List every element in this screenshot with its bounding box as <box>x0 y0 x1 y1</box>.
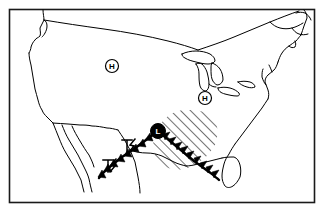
border-canada-northeast <box>198 11 299 50</box>
lake-huron <box>211 63 223 85</box>
low-pressure-label: L <box>156 127 161 136</box>
coastline-michigan-thumb <box>209 84 216 87</box>
weather-map-figure: H H L <box>0 0 324 212</box>
lake-superior <box>182 51 215 64</box>
coastline-northeast <box>278 35 301 62</box>
lake-michigan <box>196 63 209 91</box>
map-frame <box>10 10 315 203</box>
pressure-center-high-2: H <box>199 92 212 105</box>
coastline-nova-scotia <box>292 28 308 35</box>
coastline-pacific-northwest <box>29 10 44 53</box>
coastline-gulf-st-lawrence <box>270 22 303 29</box>
coastline-delaware-bay <box>269 65 272 72</box>
coastline-gulf-of-california <box>72 126 94 167</box>
pressure-center-high-1: H <box>106 60 119 73</box>
high-pressure-label: H <box>202 94 208 103</box>
coastline-florida <box>222 144 241 188</box>
border-canada-north <box>44 20 198 50</box>
coastline-atlantic-midatlantic <box>265 62 278 99</box>
coastline-atlantic-southeast <box>235 99 268 144</box>
lake-erie <box>218 87 239 96</box>
precipitation-area <box>140 100 240 190</box>
coastline-newfoundland <box>296 12 311 20</box>
lake-ontario <box>238 81 255 88</box>
coastline-california <box>29 53 53 123</box>
weather-map-canvas: H H L <box>0 0 324 212</box>
pressure-center-low-1: L <box>151 124 166 139</box>
high-pressure-label: H <box>109 62 115 71</box>
